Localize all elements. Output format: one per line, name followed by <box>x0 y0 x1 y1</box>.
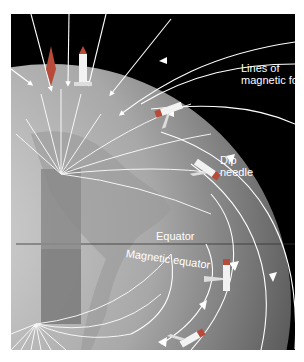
label-line: Lines of <box>241 62 295 74</box>
magnet-bar-north <box>41 169 81 249</box>
equator-label: Equator <box>156 230 195 242</box>
label-line: needle <box>220 166 253 178</box>
lines-of-force-label: Lines of magnetic force <box>241 62 295 86</box>
bottom-margin <box>0 350 304 362</box>
label-line: magnetic force <box>241 74 295 86</box>
magnetic-field-illustration: Lines of magnetic force Dip needle Equat… <box>11 14 295 350</box>
dip-needle-label: Dip needle <box>220 154 253 178</box>
magnet-bar-south <box>41 249 81 324</box>
label-line: Dip <box>220 154 253 166</box>
field-arrow-icon <box>159 57 167 64</box>
